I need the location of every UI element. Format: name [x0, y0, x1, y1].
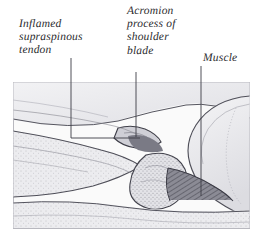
- label-acromion-process-of-shoulder-blade: Acromion process of shoulder blade: [127, 5, 176, 58]
- anatomy-figure: Inflamed supraspinous tendon Acromion pr…: [0, 0, 263, 239]
- label-inflamed-supraspinous-tendon: Inflamed supraspinous tendon: [19, 18, 83, 58]
- label-muscle: Muscle: [203, 52, 237, 65]
- illustration-plate: [13, 82, 250, 229]
